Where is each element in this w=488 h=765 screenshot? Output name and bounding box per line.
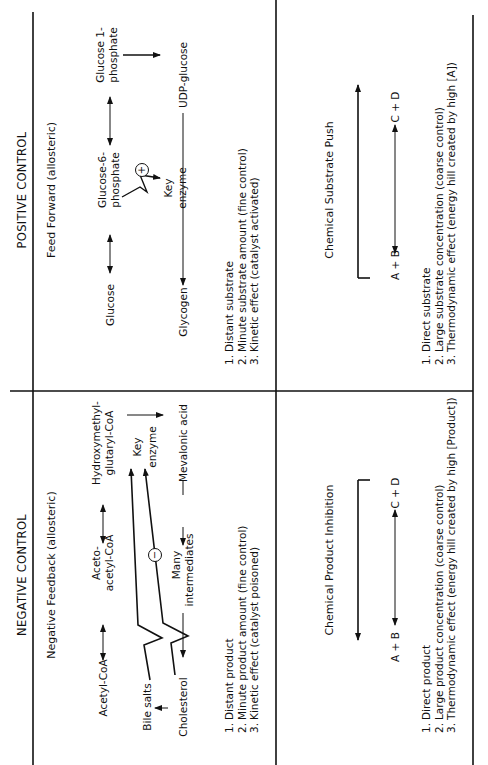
positive-control-header: POSITIVE CONTROL [16, 132, 28, 249]
list-item: 3.Thermodynamic effect (energy hill crea… [445, 62, 458, 365]
g6p-label-1: Glucose-6- [96, 152, 108, 208]
g1p-label-2: phosphate [107, 27, 119, 83]
list-item: 3.Kinetic effect (catalyst poisoned) [248, 526, 261, 733]
substrate-push-points: 1.Direct substrate 2.Large substrate con… [420, 62, 458, 365]
list-item: 3.Kinetic effect (catalyst activated) [248, 148, 261, 365]
sp-left-reactants: A + B [389, 250, 401, 280]
list-item: 3.Thermodynamic effect (energy hill crea… [445, 397, 458, 733]
enzyme-label: enzyme [146, 426, 158, 468]
key-label: Key [131, 437, 143, 456]
bile-salts-label: Bile salts [141, 683, 153, 730]
acetoacetyl-coa-label-1: Aceto- [90, 546, 102, 580]
plus-icon: + [136, 166, 148, 174]
list-item: 1.Distant product [223, 526, 236, 733]
acetoacetyl-coa-label-2: acetyl-CoA [103, 535, 115, 592]
glycogen-label: Glycogen [177, 287, 189, 336]
list-item: 1.Direct substrate [420, 62, 433, 365]
list-item: 2.Minute substrate amount (fine control) [236, 148, 249, 365]
pi-right-products: C + D [389, 478, 401, 509]
negative-feedback-points: 1.Distant product 2.Minute product amoun… [223, 526, 261, 733]
control-mechanisms-diagram: NEGATIVE CONTROL POSITIVE CONTROL Negati… [0, 0, 488, 765]
intermediates-label: intermediates [183, 533, 195, 606]
udp-glucose-label: UDP-glucose [177, 42, 189, 108]
list-item: 2.Minute product amount (fine control) [236, 526, 249, 733]
list-item: 1.Distant substrate [223, 148, 236, 365]
g1p-label-1: Glucose 1- [94, 27, 106, 83]
list-item: 2.Large substrate concentration (coarse … [433, 62, 446, 365]
pi-left-reactants: A + B [389, 632, 401, 662]
feed-forward-points: 1.Distant substrate 2.Minute substrate a… [223, 148, 261, 365]
negative-feedback-title: Negative Feedback (allosteric) [46, 491, 58, 658]
list-item: 1.Direct product [420, 397, 433, 733]
product-inhibition-title: Chemical Product Inhibition [324, 484, 336, 635]
list-item: 2.Large product concentration (coarse co… [433, 397, 446, 733]
feed-forward-title: Feed Forward (allosteric) [46, 122, 58, 258]
g6p-label-2: phosphate [109, 152, 121, 208]
negative-control-header: NEGATIVE CONTROL [16, 514, 28, 636]
acetyl-coa-label: Acetyl-CoA [97, 659, 109, 716]
mevalonic-acid-label: Mevalonic acid [177, 404, 189, 482]
ff-key-label: Key [162, 178, 174, 197]
many-label: Many [170, 551, 182, 579]
ff-enzyme-label: enzyme [176, 167, 188, 209]
glucose-label: Glucose [104, 284, 116, 326]
hmg-coa-label-1: Hydroxymethyl- [90, 401, 102, 485]
product-inhibition-points: 1.Direct product 2.Large product concent… [420, 397, 458, 733]
hmg-coa-label-2: glutaryl-CoA [103, 411, 115, 476]
sp-right-products: C + D [389, 92, 401, 123]
cholesterol-label: Cholesterol [177, 677, 189, 736]
substrate-push-title: Chemical Substrate Push [324, 121, 336, 258]
minus-icon: − [149, 551, 161, 559]
